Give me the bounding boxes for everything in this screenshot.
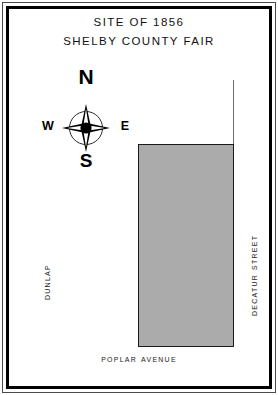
street-label-dunlap: Dunlap bbox=[41, 264, 52, 300]
map-title-line-2: SHELBY COUNTY FAIR bbox=[10, 32, 268, 51]
compass-rose-icon bbox=[62, 104, 110, 152]
fairground-parcel bbox=[138, 144, 234, 347]
compass-label-east: E bbox=[115, 120, 135, 133]
compass-label-south: S bbox=[38, 151, 134, 170]
map-title: SITE OF 1856 SHELBY COUNTY FAIR bbox=[10, 13, 268, 51]
compass-rose: N W E S bbox=[38, 66, 134, 178]
street-label-poplar-avenue: Poplar Avenue bbox=[10, 353, 268, 364]
map-figure: SITE OF 1856 SHELBY COUNTY FAIR N W E S … bbox=[0, 0, 278, 395]
compass-label-west: W bbox=[38, 120, 58, 133]
map-title-line-1: SITE OF 1856 bbox=[10, 13, 268, 32]
street-label-decatur-street: Decatur Street bbox=[248, 235, 259, 316]
compass-label-north: N bbox=[38, 66, 134, 87]
decatur-street-line bbox=[233, 80, 234, 145]
